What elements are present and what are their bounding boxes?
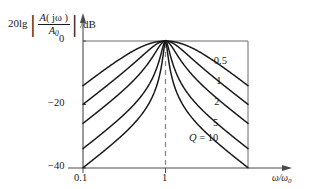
x-axis-arrowhead [282,165,292,171]
bode-magnitude-figure: 20lg |A( jω )A0| /dB 0 −20 −40 0.1 1 ω/ω… [0,0,309,189]
curve-label-q-0.5: 0.5 [214,55,227,66]
x-axis-label-num: ω [272,173,279,183]
curve-label-q-2: 2 [214,96,219,107]
y-axis-arrowhead [80,13,86,23]
x-axis-label-den-sub: 0 [288,177,292,185]
x-ticklabel-1: 1 [162,172,167,183]
curve-label-q-10: Q = 10 [189,132,218,143]
x-ticklabel-0p1: 0.1 [74,172,87,183]
curve-label-q-1: 1 [216,75,221,86]
curve-label-q-5: 5 [213,117,218,128]
y-ticklabel-minus20: −20 [48,97,64,108]
plot-canvas [0,0,309,189]
y-ticklabel-0: 0 [59,33,64,44]
y-ticklabel-minus40: −40 [48,160,64,171]
x-axis-label: ω/ω0 [272,173,292,183]
